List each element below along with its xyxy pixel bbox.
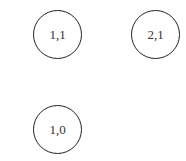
- node-1-1: 1,1: [33, 10, 82, 59]
- node-2-1: 2,1: [131, 10, 180, 59]
- node-1-0: 1,0: [33, 105, 82, 154]
- node-label: 2,1: [147, 27, 163, 43]
- node-label: 1,1: [49, 27, 65, 43]
- node-label: 1,0: [49, 122, 65, 138]
